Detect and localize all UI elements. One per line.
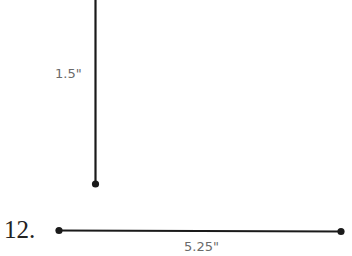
horizontal-endpoint-left bbox=[55, 227, 62, 234]
vertical-length-label: 1.5" bbox=[55, 66, 82, 81]
horizontal-endpoint-right bbox=[337, 228, 344, 235]
problem-number: 12. bbox=[4, 216, 35, 244]
vertical-endpoint bbox=[92, 180, 99, 187]
horizontal-length-label: 5.25" bbox=[184, 239, 219, 254]
segments-diagram bbox=[0, 0, 352, 256]
horizontal-segment bbox=[59, 231, 341, 232]
